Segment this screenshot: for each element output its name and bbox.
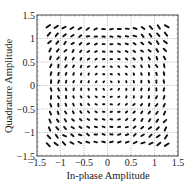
constellation-point xyxy=(87,43,89,44)
constellation-point xyxy=(165,144,169,146)
constellation-point xyxy=(102,142,105,143)
constellation-point xyxy=(63,135,66,136)
constellation-point xyxy=(80,119,82,120)
constellation-point xyxy=(164,104,165,107)
constellation-point xyxy=(133,104,134,105)
constellation-point xyxy=(133,66,134,67)
constellation-point xyxy=(46,25,50,28)
constellation-point xyxy=(141,142,144,143)
constellation-point xyxy=(56,41,58,44)
constellation-point xyxy=(134,134,136,136)
constellation-point xyxy=(58,80,59,82)
constellation-point xyxy=(47,143,50,146)
constellation-point xyxy=(94,28,97,29)
y-tick-label: −1.5 xyxy=(17,151,35,162)
constellation-point xyxy=(118,51,120,52)
constellation-point xyxy=(118,96,119,97)
constellation-point xyxy=(88,51,90,52)
constellation-point xyxy=(63,34,66,36)
constellation-point xyxy=(103,119,105,120)
constellation-point xyxy=(134,119,135,121)
y-tick-labels: −1.5−1−0.500.511.5 xyxy=(17,10,35,162)
constellation-point xyxy=(156,119,158,121)
constellation-point xyxy=(118,36,120,37)
constellation-point xyxy=(165,33,167,36)
constellation-point xyxy=(86,142,89,143)
constellation-point xyxy=(118,59,119,60)
constellation-point xyxy=(64,127,66,129)
x-tick-label: −1 xyxy=(55,157,66,168)
constellation-point xyxy=(48,41,51,43)
constellation-point xyxy=(73,73,74,75)
x-tick-labels: −1.5−1−0.500.511.5 xyxy=(28,157,184,168)
constellation-point xyxy=(157,33,159,36)
constellation-point xyxy=(149,50,151,52)
constellation-point xyxy=(72,127,74,128)
constellation-point xyxy=(50,112,51,115)
constellation-point xyxy=(149,112,151,114)
constellation-point xyxy=(134,43,136,44)
constellation-point xyxy=(165,127,167,130)
constellation-point xyxy=(87,127,89,128)
constellation-point xyxy=(157,135,160,137)
constellation-point xyxy=(150,26,152,29)
constellation-point xyxy=(71,35,73,37)
constellation-point xyxy=(62,27,65,29)
constellation-point xyxy=(141,104,142,105)
constellation-point xyxy=(65,57,66,59)
constellation-point xyxy=(156,104,158,106)
constellation-point xyxy=(157,57,158,60)
constellation-point xyxy=(149,135,151,137)
constellation-point xyxy=(88,111,89,112)
constellation-point xyxy=(79,127,81,128)
constellation-point xyxy=(56,33,58,36)
constellation-point xyxy=(118,66,119,67)
constellation-point xyxy=(80,58,81,60)
constellation-point xyxy=(65,112,66,114)
y-tick-label: 1 xyxy=(30,33,35,44)
constellation-point xyxy=(126,104,127,105)
constellation-point xyxy=(156,49,158,52)
constellation-point xyxy=(110,142,113,143)
constellation-point xyxy=(66,73,67,75)
constellation-point xyxy=(126,134,128,135)
constellation-point xyxy=(126,142,129,143)
constellation-point xyxy=(133,58,135,59)
constellation-point xyxy=(51,88,52,91)
constellation-point xyxy=(95,51,97,52)
constellation-point xyxy=(142,35,144,37)
constellation-point xyxy=(73,96,74,98)
x-tick-label: 0.5 xyxy=(125,157,138,168)
constellation-point xyxy=(149,119,150,121)
constellation-point xyxy=(80,111,81,112)
constellation-point xyxy=(134,142,137,143)
constellation-point xyxy=(141,58,142,60)
constellation-point xyxy=(49,48,50,51)
constellation-point xyxy=(95,119,97,120)
constellation-point xyxy=(165,25,169,27)
constellation-point xyxy=(164,41,167,43)
constellation-point xyxy=(58,112,59,115)
constellation-point xyxy=(141,73,142,75)
constellation-point xyxy=(149,42,151,44)
constellation-point xyxy=(51,72,52,75)
constellation-point xyxy=(156,73,157,75)
constellation-point xyxy=(79,28,82,30)
constellation-point xyxy=(50,64,51,67)
constellation-point xyxy=(65,65,66,67)
constellation-point xyxy=(134,36,137,37)
constellation-point xyxy=(111,66,112,67)
constellation-point xyxy=(157,127,159,129)
constellation-point xyxy=(95,111,96,112)
constellation-point xyxy=(66,88,67,90)
constellation-point xyxy=(55,143,58,145)
constellation-point xyxy=(141,111,142,113)
constellation-point xyxy=(149,81,150,83)
constellation-point xyxy=(81,66,82,68)
constellation-point xyxy=(110,29,113,30)
constellation-point xyxy=(103,81,104,82)
constellation-point xyxy=(164,49,166,51)
constellation-point xyxy=(63,142,65,145)
y-tick-label: −1 xyxy=(24,127,35,138)
constellation-point xyxy=(94,142,97,143)
